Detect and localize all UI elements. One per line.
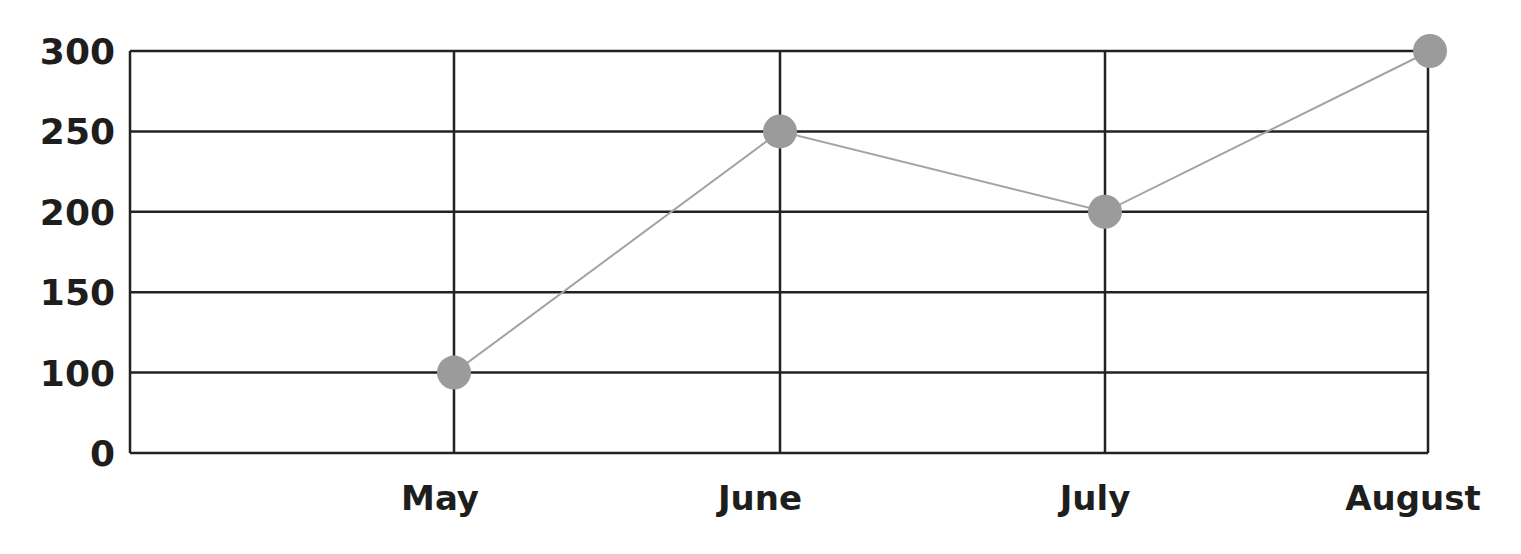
chart-grid [130, 51, 1428, 453]
y-axis-ticks: 0100150200250300 [40, 31, 115, 474]
line-chart: 0100150200250300 MayJuneJulyAugust [0, 0, 1521, 554]
y-tick-label: 150 [40, 272, 115, 313]
x-tick-label: May [401, 478, 479, 518]
x-tick-label: July [1058, 478, 1131, 518]
x-tick-label: August [1345, 478, 1481, 518]
x-axis-ticks: MayJuneJulyAugust [401, 478, 1481, 518]
y-tick-label: 250 [40, 111, 115, 152]
y-tick-label: 200 [40, 192, 115, 233]
y-tick-label: 100 [40, 353, 115, 394]
data-point-marker [1088, 195, 1122, 229]
y-tick-label: 300 [40, 31, 115, 72]
data-point-marker [1413, 34, 1447, 68]
data-point-marker [763, 114, 797, 148]
x-tick-label: June [716, 478, 802, 518]
y-tick-label: 0 [90, 433, 115, 474]
data-point-marker [437, 356, 471, 390]
